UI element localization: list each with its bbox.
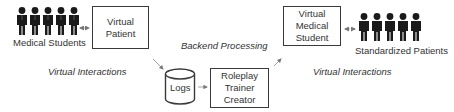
patient-logs-arrow — [153, 59, 163, 69]
arrows-layer — [0, 0, 454, 112]
creator-vms-arrow — [274, 59, 281, 66]
